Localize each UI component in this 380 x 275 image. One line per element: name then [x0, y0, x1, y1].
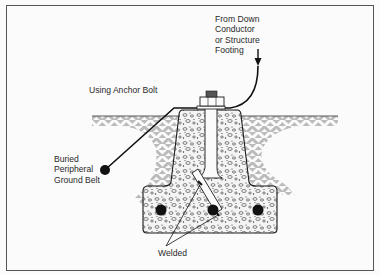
- label-line: Footing: [215, 45, 260, 55]
- label-line: or Structure: [215, 35, 260, 45]
- label-method: Using Anchor Bolt: [89, 85, 157, 95]
- rebar-left: [156, 205, 167, 216]
- rebar-center: [208, 205, 219, 216]
- label-line: Ground Belt: [54, 175, 100, 185]
- nut-icon: [197, 91, 225, 109]
- label-welded: Welded: [158, 248, 187, 258]
- footing-cross-section: [0, 0, 380, 275]
- label-line: From Down: [215, 14, 260, 24]
- label-conductor-source: From Down Conductor or Structure Footing: [215, 14, 260, 56]
- rebar-right: [253, 205, 264, 216]
- label-line: Conductor: [215, 24, 260, 34]
- down-conductor: [225, 49, 262, 108]
- label-ground-belt: Buried Peripheral Ground Belt: [54, 154, 100, 185]
- label-line: Buried: [54, 154, 100, 164]
- label-line: Peripheral: [54, 164, 100, 174]
